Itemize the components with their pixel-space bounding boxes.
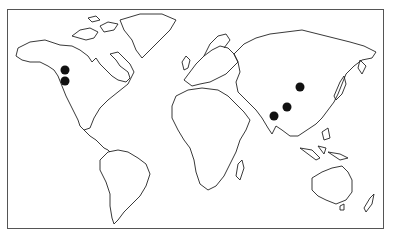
marker-asia-1[interactable] <box>296 83 305 92</box>
asia-outline <box>234 30 376 136</box>
tasmania-outline <box>340 204 344 210</box>
marker-asia-2[interactable] <box>283 103 292 112</box>
arctic-islands-outline <box>72 16 118 40</box>
australia-outline <box>312 166 352 204</box>
greenland-outline <box>120 14 176 58</box>
south-america-outline <box>100 150 150 224</box>
marker-asia-3[interactable] <box>270 112 279 121</box>
kamchatka-outline <box>358 60 366 74</box>
marker-na-2[interactable] <box>61 77 70 86</box>
new-zealand-outline <box>364 194 374 212</box>
uk-outline <box>182 56 190 70</box>
madagascar-outline <box>236 160 244 180</box>
europe-outline <box>184 46 238 86</box>
africa-outline <box>172 88 250 190</box>
central-america-outline <box>84 130 110 152</box>
southeast-asia-islands-outline <box>300 128 348 160</box>
world-map <box>0 0 394 234</box>
marker-na-1[interactable] <box>61 66 70 75</box>
north-america-outline <box>16 40 134 130</box>
